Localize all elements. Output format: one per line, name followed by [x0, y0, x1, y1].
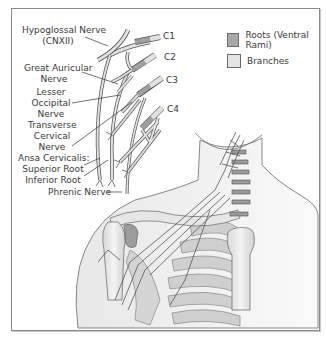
label-line: Phrenic Nerve — [48, 187, 111, 197]
label-lesser-occipital-nerve: Lesser Occipital Nerve — [30, 87, 72, 120]
legend-item-branches: Branches — [227, 54, 326, 68]
label-c4: C4 — [167, 104, 179, 114]
label-line: (CNXII) — [22, 36, 94, 47]
label-line: Nerve — [28, 142, 76, 153]
label-line: Inferior Root — [18, 175, 88, 186]
label-line: Great Auricular — [24, 63, 84, 74]
label-line: Superior Root — [18, 164, 88, 175]
roots-swatch — [227, 33, 239, 47]
legend-item-roots: Roots (Ventral Rami) — [227, 33, 326, 47]
legend: Roots (Ventral Rami) Branches — [227, 33, 326, 75]
label-line: Cervical — [28, 131, 76, 142]
label-c2: C2 — [164, 52, 176, 62]
label-c3: C3 — [166, 75, 178, 85]
root-c4 — [142, 108, 162, 128]
root-c3 — [138, 78, 162, 95]
label-line: Transverse — [28, 120, 76, 131]
label-phrenic-nerve: Phrenic Nerve — [48, 187, 111, 198]
label-line: Hypoglossal Nerve — [22, 25, 94, 36]
root-c1 — [135, 37, 160, 42]
label-transverse-cervical-nerve: Transverse Cervical Nerve — [28, 120, 76, 153]
label-line: Occipital — [30, 98, 72, 109]
label-line: Ansa Cervicalis: — [18, 153, 88, 164]
label-hypoglossal-nerve: Hypoglossal Nerve (CNXII) — [22, 25, 94, 47]
label-line: Nerve — [24, 74, 84, 85]
branches-swatch — [227, 54, 241, 68]
legend-label: Roots (Ventral Rami) — [245, 30, 326, 50]
legend-label: Branches — [247, 56, 289, 66]
label-ansa-cervicalis: Ansa Cervicalis: Superior Root Inferior … — [18, 153, 88, 186]
label-line: Nerve — [30, 109, 72, 120]
root-c2 — [127, 52, 155, 70]
label-line: Lesser — [30, 87, 72, 98]
label-great-auricular-nerve: Great Auricular Nerve — [24, 63, 84, 85]
label-c1: C1 — [163, 31, 175, 41]
